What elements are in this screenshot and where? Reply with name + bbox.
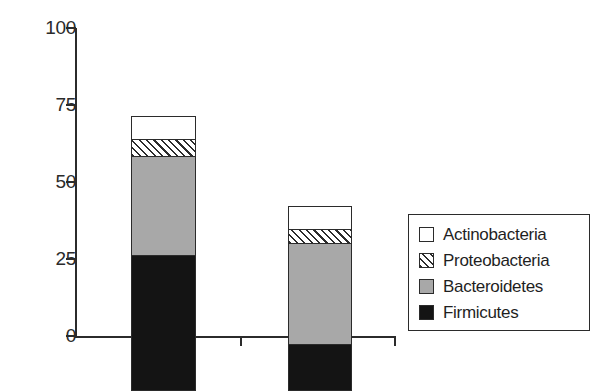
bar-health <box>131 55 196 391</box>
bar-crohn-segment-proteobacteria <box>288 229 352 244</box>
x-tick-mark-end <box>394 336 396 346</box>
bar-health-segment-firmicutes <box>131 255 196 391</box>
legend-item-actinobacteria: Actinobacteria <box>419 221 589 247</box>
y-tick-mark-25 <box>66 258 76 260</box>
legend-item-bacteroidetes: Bacteroidetes <box>419 273 589 299</box>
y-tick-mark-75 <box>66 104 76 106</box>
bar-crohn-segment-firmicutes <box>288 344 352 391</box>
legend-label-firmicutes: Firmicutes <box>443 303 518 322</box>
bar-health-segment-bacteroidetes <box>131 156 196 256</box>
stacked-bar-chart: 100 75 50 25 0 Health Crohn A <box>0 0 609 391</box>
white-square-icon <box>419 227 434 242</box>
legend-label-actinobacteria: Actinobacteria <box>443 225 547 244</box>
bar-crohn-segment-bacteroidetes <box>288 243 352 345</box>
y-tick-mark-50 <box>66 181 76 183</box>
y-tick-mark-100 <box>66 27 76 29</box>
bar-crohn-segment-actinobacteria <box>288 206 352 230</box>
black-square-icon <box>419 305 434 320</box>
gray-square-icon <box>419 279 434 294</box>
bar-crohn <box>288 55 352 391</box>
legend-label-proteobacteria: Proteobacteria <box>443 251 549 270</box>
legend-item-firmicutes: Firmicutes <box>419 299 589 325</box>
legend-item-proteobacteria: Proteobacteria <box>419 247 589 273</box>
bar-health-segment-actinobacteria <box>131 116 196 140</box>
x-tick-mark-mid <box>240 336 242 346</box>
legend-label-bacteroidetes: Bacteroidetes <box>443 277 543 296</box>
chart-legend: Actinobacteria Proteobacteria Bacteroide… <box>408 214 590 331</box>
bar-health-segment-proteobacteria <box>131 139 196 157</box>
hatched-square-icon <box>419 253 434 268</box>
